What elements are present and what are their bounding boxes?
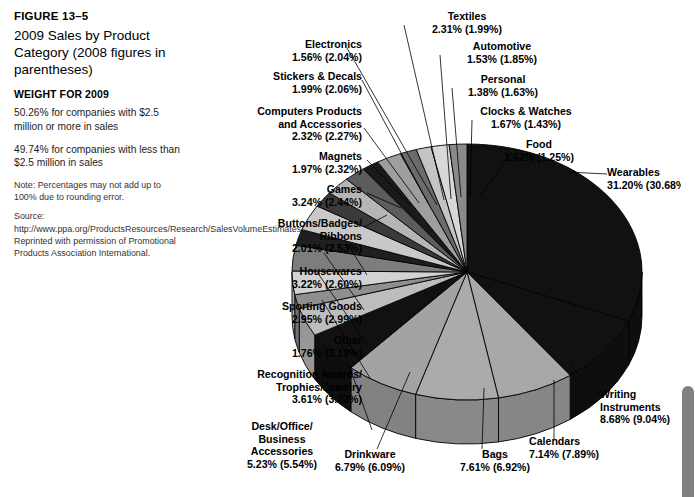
slice-label-magnets: Magnets1.97% (2.32%) [222, 150, 362, 175]
slice-label-value: 2.32% (2.27%) [182, 130, 362, 143]
weight-line-2: 49.74% for companies with less than $2.5… [14, 143, 182, 170]
slice-label-textiles: Textiles2.31% (1.99%) [392, 10, 542, 35]
slice-label-name: Automotive [422, 40, 582, 53]
slice-label-value: 2.95% (2.99%) [192, 313, 362, 326]
slice-label-name: Desk/Office/ Business Accessories [202, 420, 362, 458]
weight-line-1: 50.26% for companies with $2.5 million o… [14, 106, 182, 133]
slice-label-name: Bags [440, 448, 550, 461]
slice-label-games: Games3.24% (2.44%) [222, 183, 362, 208]
weight-heading: WEIGHT FOR 2009 [14, 88, 182, 100]
slice-label-name: Computers Products and Accessories [182, 105, 362, 130]
figure-note: Note: Percentages may not add up to 100%… [14, 179, 182, 204]
slice-label-name: Textiles [392, 10, 542, 23]
slice-label-name: Stickers & Decals [202, 70, 362, 83]
slice-label-value: 3.61% (3.23%) [177, 393, 362, 406]
slice-label-name: Games [222, 183, 362, 196]
pie-slice-wall [416, 394, 499, 444]
slice-label-value: 1.38% (1.63%) [428, 86, 578, 99]
slice-label-name: Clocks & Watches [446, 105, 606, 118]
slice-label-value: 7.61% (6.92%) [440, 461, 550, 474]
figure-source: Source: http://www.ppa.org/ProductsResou… [14, 210, 182, 259]
slice-label-sporting-goods: Sporting Goods2.95% (2.99%) [192, 300, 362, 325]
slice-label-buttons-badges-ribbons: Buttons/Badges/ Ribbons2.01% (2.53%) [192, 217, 362, 255]
slice-label-personal: Personal1.38% (1.63%) [428, 73, 578, 98]
slice-label-food: Food1.62% (1.25%) [479, 138, 599, 163]
vertical-scrollbar[interactable] [681, 0, 695, 497]
slice-label-name: Magnets [222, 150, 362, 163]
slice-label-value: 2.31% (1.99%) [392, 23, 542, 36]
figure-title: 2009 Sales by Product Category (2008 fig… [14, 27, 182, 78]
slice-label-bags: Bags7.61% (6.92%) [440, 448, 550, 473]
slice-label-other: Other1.76% (3.19%) [222, 334, 362, 359]
slice-label-name: Personal [428, 73, 578, 86]
slice-label-value: 5.23% (5.54%) [202, 458, 362, 471]
slice-label-name: Calendars [529, 435, 649, 448]
slice-label-value: 1.97% (2.32%) [222, 163, 362, 176]
slice-label-name: Food [479, 138, 599, 151]
slice-label-value: 3.22% (2.60%) [202, 278, 362, 291]
slice-label-value: 1.99% (2.06%) [202, 83, 362, 96]
slice-label-value: 1.56% (2.04%) [217, 51, 362, 64]
slice-label-value: 1.53% (1.85%) [422, 53, 582, 66]
slice-label-automotive: Automotive1.53% (1.85%) [422, 40, 582, 65]
slice-label-value: 1.62% (1.25%) [479, 151, 599, 164]
figure-number: FIGURE 13–5 [14, 10, 182, 22]
slice-label-electronics: Electronics1.56% (2.04%) [217, 38, 362, 63]
slice-label-value: 1.67% (1.43%) [446, 118, 606, 131]
scrollbar-thumb[interactable] [682, 386, 694, 497]
slice-label-name: Other [222, 334, 362, 347]
figure-caption-block: FIGURE 13–5 2009 Sales by Product Catego… [14, 10, 182, 266]
slice-label-name: Sporting Goods [192, 300, 362, 313]
slice-label-name: Buttons/Badges/ Ribbons [192, 217, 362, 242]
slice-label-name: Housewares [202, 265, 362, 278]
slice-label-recognition-awards-trophies-jewelry: Recognition Awards/ Trophies/Jewelry3.61… [177, 368, 362, 406]
slice-label-name: Electronics [217, 38, 362, 51]
slice-label-stickers-decals: Stickers & Decals1.99% (2.06%) [202, 70, 362, 95]
figure-canvas: FIGURE 13–5 2009 Sales by Product Catego… [0, 0, 695, 497]
slice-label-clocks-watches: Clocks & Watches1.67% (1.43%) [446, 105, 606, 130]
slice-label-computers-products-and-accessories: Computers Products and Accessories2.32% … [182, 105, 362, 143]
pie-chart: Wearables31.20% (30.68%)Writing Instrume… [182, 0, 695, 497]
slice-label-name: Recognition Awards/ Trophies/Jewelry [177, 368, 362, 393]
slice-label-value: 1.76% (3.19%) [222, 347, 362, 360]
slice-label-housewares: Housewares3.22% (2.60%) [202, 265, 362, 290]
slice-label-value: 3.24% (2.44%) [222, 196, 362, 209]
slice-label-desk-office-business-accessories: Desk/Office/ Business Accessories5.23% (… [202, 420, 362, 471]
slice-label-value: 2.01% (2.53%) [192, 242, 362, 255]
